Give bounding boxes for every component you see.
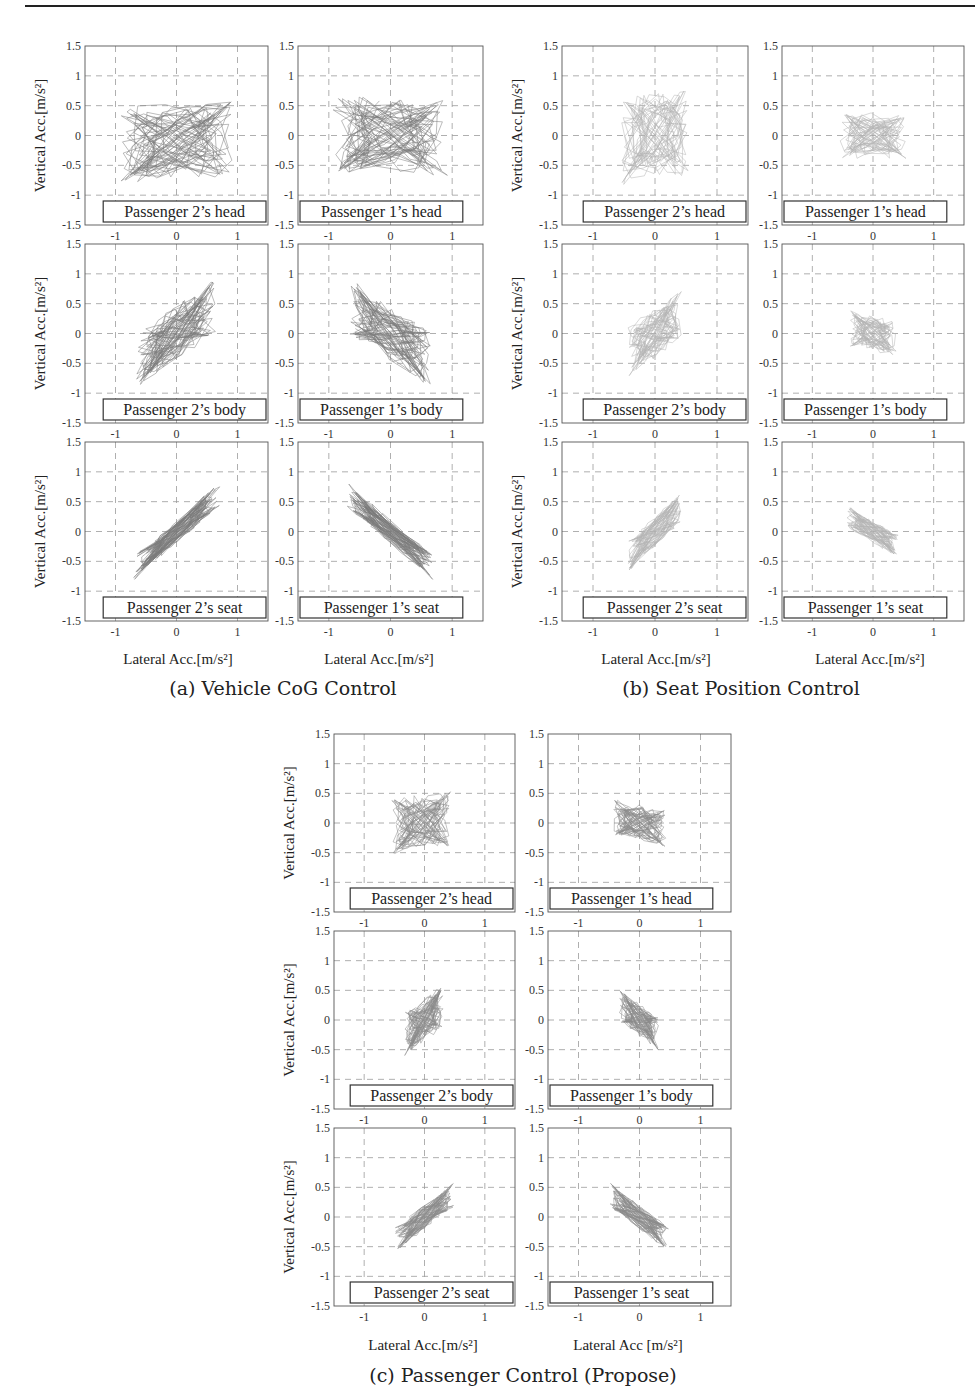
y-tick-label: 1 bbox=[324, 757, 330, 771]
y-tick-label: -1 bbox=[284, 584, 294, 598]
svg-text:Passenger 1’s body: Passenger 1’s body bbox=[570, 1087, 693, 1105]
trajectory-plot bbox=[405, 988, 443, 1055]
x-axis-label: Lateral Acc.[m/s²] bbox=[368, 1337, 477, 1353]
x-tick-label: 0 bbox=[174, 427, 180, 441]
y-tick-label: -1 bbox=[320, 1072, 330, 1086]
y-tick-label: 1 bbox=[552, 69, 558, 83]
y-tick-label: -1 bbox=[534, 1269, 544, 1283]
scatter-panel: 1.510.50-0.5-1-1.5-101Passenger 2’s body… bbox=[509, 237, 748, 441]
y-tick-label: -1.5 bbox=[759, 614, 778, 628]
x-tick-label: 0 bbox=[637, 1310, 643, 1324]
y-tick-label: -0.5 bbox=[62, 158, 81, 172]
x-tick-label: 1 bbox=[235, 427, 241, 441]
trajectory-plot bbox=[847, 508, 898, 554]
y-tick-label: 0.5 bbox=[279, 495, 294, 509]
scatter-panel: 1.510.50-0.5-1-1.5-101Passenger 2’s seat… bbox=[32, 435, 268, 639]
y-tick-label: 0.5 bbox=[66, 297, 81, 311]
x-tick-label: -1 bbox=[588, 229, 598, 243]
y-tick-label: -0.5 bbox=[62, 554, 81, 568]
y-tick-label: 1.5 bbox=[529, 924, 544, 938]
y-tick-label: 1 bbox=[772, 465, 778, 479]
x-tick-label: 0 bbox=[870, 427, 876, 441]
y-axis-label: Vertical Acc.[m/s²] bbox=[32, 277, 48, 391]
y-tick-label: 1.5 bbox=[763, 435, 778, 449]
scatter-panel: 1.510.50-0.5-1-1.5-101Passenger 1’s body bbox=[525, 924, 731, 1127]
y-tick-label: -1.5 bbox=[525, 1102, 544, 1116]
x-tick-label: 1 bbox=[698, 916, 704, 930]
svg-text:Passenger 2’s head: Passenger 2’s head bbox=[604, 203, 725, 221]
y-tick-label: 0.5 bbox=[66, 495, 81, 509]
panel-label: Passenger 2’s head bbox=[350, 888, 513, 909]
x-tick-label: 0 bbox=[422, 1310, 428, 1324]
y-tick-label: 1 bbox=[324, 954, 330, 968]
x-axis-label: Lateral Acc.[m/s²] bbox=[601, 651, 710, 667]
y-tick-label: 0 bbox=[75, 327, 81, 341]
x-tick-label: 1 bbox=[235, 625, 241, 639]
panel-label: Passenger 1’s head bbox=[550, 888, 713, 909]
scatter-panel: 1.510.50-0.5-1-1.5-101Passenger 1’s seat bbox=[759, 435, 964, 639]
y-tick-label: -1 bbox=[768, 188, 778, 202]
svg-text:Passenger 1’s head: Passenger 1’s head bbox=[321, 203, 442, 221]
x-tick-label: 1 bbox=[714, 229, 720, 243]
y-tick-label: 1 bbox=[538, 954, 544, 968]
scatter-panel: 1.510.50-0.5-1-1.5-101Passenger 1’s head bbox=[525, 727, 731, 930]
y-tick-label: 0.5 bbox=[543, 99, 558, 113]
y-tick-label: 1 bbox=[772, 69, 778, 83]
x-tick-label: 0 bbox=[637, 1113, 643, 1127]
x-tick-label: 1 bbox=[482, 1113, 488, 1127]
y-tick-label: -1 bbox=[320, 875, 330, 889]
y-tick-label: -1 bbox=[71, 188, 81, 202]
y-tick-label: 1.5 bbox=[315, 1121, 330, 1135]
y-tick-label: 1.5 bbox=[543, 237, 558, 251]
y-tick-label: 1 bbox=[552, 465, 558, 479]
x-tick-label: -1 bbox=[807, 229, 817, 243]
y-tick-label: 0 bbox=[288, 129, 294, 143]
panel-label: Passenger 2’s seat bbox=[350, 1282, 513, 1303]
svg-text:Passenger 1’s seat: Passenger 1’s seat bbox=[324, 599, 440, 617]
y-tick-label: 0 bbox=[538, 816, 544, 830]
y-tick-label: -0.5 bbox=[275, 158, 294, 172]
scatter-panel: 1.510.50-0.5-1-1.5-101Passenger 1’s body bbox=[759, 237, 964, 441]
y-tick-label: -0.5 bbox=[311, 1240, 330, 1254]
scatter-panel: 1.510.50-0.5-1-1.5-101Passenger 2’s head… bbox=[509, 39, 748, 243]
trajectory-plot bbox=[628, 495, 680, 570]
y-tick-label: 1 bbox=[772, 267, 778, 281]
y-tick-label: -0.5 bbox=[275, 554, 294, 568]
x-tick-label: 0 bbox=[422, 916, 428, 930]
y-tick-label: 0.5 bbox=[543, 495, 558, 509]
x-tick-label: 1 bbox=[714, 625, 720, 639]
y-tick-label: 0 bbox=[75, 129, 81, 143]
x-tick-label: 0 bbox=[422, 1113, 428, 1127]
x-axis-label: Lateral Acc [m/s²] bbox=[573, 1337, 682, 1353]
y-tick-label: 1 bbox=[75, 465, 81, 479]
y-tick-label: -1.5 bbox=[759, 416, 778, 430]
y-tick-label: -1.5 bbox=[539, 416, 558, 430]
scatter-panel: 1.510.50-0.5-1-1.5-101Passenger 1’s seat bbox=[525, 1121, 731, 1324]
y-tick-label: -0.5 bbox=[539, 356, 558, 370]
x-tick-label: -1 bbox=[588, 625, 598, 639]
scatter-panel: 1.510.50-0.5-1-1.5-101Passenger 2’s seat… bbox=[509, 435, 748, 639]
y-tick-label: 1.5 bbox=[529, 727, 544, 741]
y-tick-label: 1.5 bbox=[529, 1121, 544, 1135]
y-tick-label: 1 bbox=[324, 1151, 330, 1165]
x-tick-label: 0 bbox=[388, 427, 394, 441]
svg-text:Passenger 1’s seat: Passenger 1’s seat bbox=[808, 599, 924, 617]
scatter-panel: 1.510.50-0.5-1-1.5-101Passenger 1’s body bbox=[275, 237, 483, 441]
y-tick-label: 0 bbox=[288, 327, 294, 341]
panel-label: Passenger 1’s head bbox=[784, 201, 947, 222]
y-tick-label: 0.5 bbox=[543, 297, 558, 311]
y-tick-label: 1 bbox=[288, 69, 294, 83]
y-tick-label: 0.5 bbox=[315, 1180, 330, 1194]
y-tick-label: -0.5 bbox=[759, 554, 778, 568]
panel-label: Passenger 2’s head bbox=[103, 201, 266, 222]
y-tick-label: -0.5 bbox=[525, 846, 544, 860]
scatter-panel: 1.510.50-0.5-1-1.5-101Passenger 1’s head bbox=[759, 39, 964, 243]
trajectory-plot bbox=[610, 1183, 668, 1246]
y-tick-label: 1 bbox=[75, 267, 81, 281]
y-tick-label: 1.5 bbox=[279, 435, 294, 449]
y-tick-label: 1.5 bbox=[279, 237, 294, 251]
y-tick-label: 0.5 bbox=[763, 99, 778, 113]
figure-caption-c: (c) Passenger Control (Propose) bbox=[369, 1364, 677, 1386]
y-tick-label: 0.5 bbox=[279, 99, 294, 113]
y-tick-label: 0.5 bbox=[279, 297, 294, 311]
